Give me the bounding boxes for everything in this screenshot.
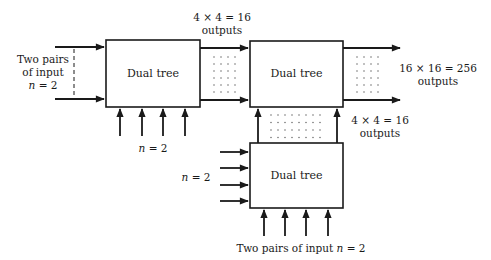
left-input-line3: n = 2 [14, 79, 72, 92]
tree3-left-label: n = 2 [176, 171, 216, 184]
tree1-bottom-label: n = 2 [128, 142, 178, 155]
top-bundle-label: 4 × 4 = 16 outputs [190, 11, 254, 37]
left-input-line1: Two pairs [14, 53, 72, 66]
dual-tree-diagram [0, 0, 491, 260]
left-input-line2: of input [14, 66, 72, 79]
tree1-bottom-input-arrows [120, 109, 185, 136]
two-pairs-text: Two pairs of input [237, 242, 337, 254]
final-output-line2: outputs [398, 75, 478, 88]
top-bundle-line2: outputs [190, 24, 254, 37]
vertical-bundle-label: 4 × 4 = 16 outputs [348, 114, 412, 140]
bundle-dots-tree3-tree2 [270, 114, 320, 138]
tree1-to-tree2-arrows [200, 48, 248, 100]
tree3-bottom-label: Two pairs of input n = 2 [226, 242, 376, 255]
tree3-bottom-input-arrows [264, 210, 328, 236]
final-output-line1: 16 × 16 = 256 [398, 62, 478, 75]
vertical-bundle-line1: 4 × 4 = 16 [348, 114, 412, 127]
n-value: = 2 [35, 79, 57, 91]
vertical-bundle-line2: outputs [348, 127, 412, 140]
tree3-to-tree2-arrows [258, 109, 337, 143]
final-output-label: 16 × 16 = 256 outputs [398, 62, 478, 88]
tree3-left-input-arrows [220, 152, 248, 201]
left-input-label: Two pairs of input n = 2 [14, 53, 72, 92]
top-bundle-line1: 4 × 4 = 16 [190, 11, 254, 24]
tree3-label: Dual tree [250, 169, 343, 182]
tree1-label: Dual tree [106, 67, 200, 80]
bundle-dots-tree1-tree2 [213, 56, 235, 92]
n-value: = 2 [188, 171, 210, 183]
n-value: = 2 [145, 142, 167, 154]
n-value: = 2 [343, 242, 365, 254]
tree2-label: Dual tree [250, 67, 343, 80]
bundle-dots-tree2-output [356, 56, 378, 92]
